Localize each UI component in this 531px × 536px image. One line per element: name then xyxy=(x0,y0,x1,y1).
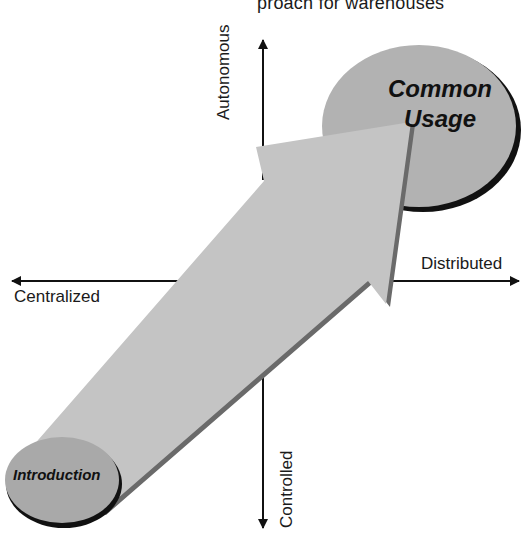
common-usage-label: Common Usage xyxy=(385,74,495,134)
axis-label-controlled: Controlled xyxy=(277,451,297,529)
axis-label-distributed: Distributed xyxy=(421,254,502,274)
common-usage-line2: Usage xyxy=(385,104,495,134)
axis-label-centralized: Centralized xyxy=(14,287,100,307)
diagram-canvas: proach for warehouses Distributed Centra… xyxy=(0,0,531,536)
axis-label-autonomous: Autonomous xyxy=(214,25,234,120)
common-usage-line1: Common xyxy=(385,74,495,104)
introduction-label: Introduction xyxy=(13,466,100,483)
caption-fragment: proach for warehouses xyxy=(257,0,444,14)
